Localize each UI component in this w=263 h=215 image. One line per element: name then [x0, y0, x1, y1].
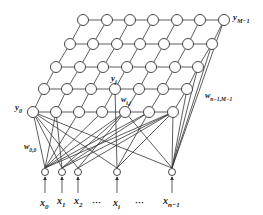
input-label-x0: x0	[40, 198, 49, 211]
input-label-x1: x1	[57, 196, 66, 209]
input-ellipsis-1: ···	[92, 198, 101, 207]
input-label-x2: x2	[74, 196, 83, 209]
input-ellipsis-2: ···	[135, 198, 144, 207]
label-w-ij: wi,j	[121, 96, 131, 106]
label-y-j: yj	[111, 74, 117, 85]
input-arrows	[45, 177, 172, 193]
weight-connections	[33, 20, 224, 168]
label-y-M-1: yM−1	[233, 13, 250, 24]
input-neurons	[42, 169, 176, 176]
input-label-xi: xi	[113, 198, 120, 211]
label-y-0: y0	[15, 103, 22, 114]
label-w-last: wn−1,M−1	[205, 92, 232, 102]
input-label-xn-1: xn−1	[163, 196, 180, 209]
som-diagram	[0, 0, 263, 215]
label-w-00: w0,0	[24, 143, 36, 153]
